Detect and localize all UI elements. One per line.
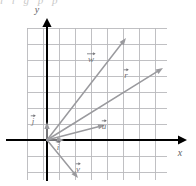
vector-label-r: r: [124, 70, 128, 80]
vector-u: u: [47, 119, 107, 140]
vector-diagram-figure: l i g p p yxjiurwv: [0, 0, 196, 186]
vector-u-shaft: [47, 127, 98, 140]
x-axis-label: x: [177, 147, 183, 158]
vector-j-arrowhead: [44, 122, 49, 129]
axes: [6, 18, 187, 181]
diagram-canvas: yxjiurwv: [0, 0, 196, 186]
cutoff-caption-text: l i g p p: [0, 0, 196, 9]
vector-label-j-overbar-arrow: [33, 114, 35, 117]
vector-r-arrowhead: [156, 68, 163, 74]
vector-label-j: j: [31, 116, 35, 126]
vector-label-w-overbar-arrow: [93, 52, 95, 55]
vector-label-u: u: [102, 121, 107, 131]
y-axis-arrowhead: [42, 18, 51, 27]
vector-label-v: v: [76, 164, 80, 174]
cutoff-caption-label: l i g p p: [0, 0, 61, 6]
vector-label-w: w: [88, 54, 94, 64]
x-axis-arrowhead: [178, 135, 187, 144]
